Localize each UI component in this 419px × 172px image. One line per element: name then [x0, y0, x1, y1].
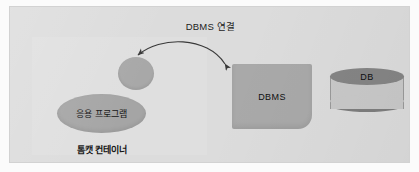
db-cylinder-bottom-face: [330, 95, 404, 107]
node-dbms: DBMS: [232, 64, 312, 129]
node-database-cylinder: DB: [330, 68, 404, 116]
node-application-program: 응용 프로그램: [57, 94, 146, 133]
node-dbms-label: DBMS: [232, 64, 312, 129]
diagram-title: DBMS 연결: [10, 19, 411, 33]
tomcat-container-caption: 톰캣 컨테이너: [57, 143, 147, 156]
node-small-component: [118, 57, 154, 90]
node-application-program-label: 응용 프로그램: [57, 94, 146, 133]
diagram-screenshot: DBMS 연결 응용 프로그램 톰캣 컨테이너 DBMS DB: [0, 0, 419, 172]
node-database-label: DB: [330, 68, 404, 85]
diagram-panel: DBMS 연결 응용 프로그램 톰캣 컨테이너 DBMS DB: [9, 6, 410, 163]
